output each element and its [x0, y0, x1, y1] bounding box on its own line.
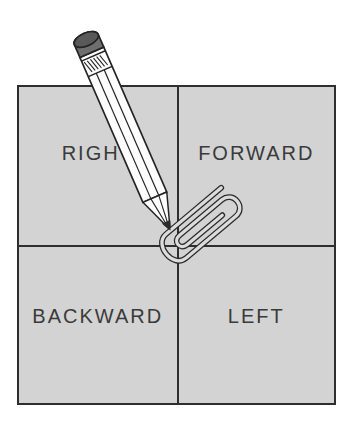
quadrant-bottom-right: LEFT	[177, 245, 335, 403]
direction-grid: RIGHT FORWARD BACKWARD LEFT	[17, 85, 336, 405]
quadrant-label-forward: FORWARD	[179, 141, 335, 165]
quadrant-top-left: RIGHT	[19, 87, 177, 245]
quadrant-top-right: FORWARD	[177, 87, 335, 245]
spinner-diagram: RIGHT FORWARD BACKWARD LEFT	[0, 0, 348, 428]
quadrant-bottom-left: BACKWARD	[19, 245, 177, 403]
quadrant-label-left: LEFT	[179, 304, 335, 328]
quadrant-label-backward: BACKWARD	[19, 304, 177, 328]
quadrant-label-right: RIGHT	[19, 141, 177, 165]
